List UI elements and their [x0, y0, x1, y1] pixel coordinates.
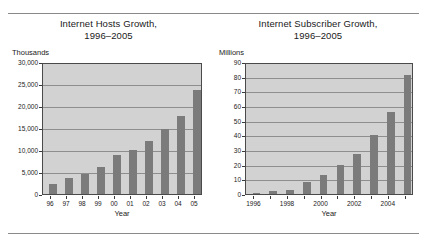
bar [81, 174, 88, 194]
bar [161, 129, 168, 194]
x-tick-label: 00 [110, 200, 117, 207]
x-tick-label: 03 [158, 200, 165, 207]
x-tick-label: 97 [62, 200, 69, 207]
x-tick-label: 2000 [313, 200, 327, 207]
y-tick-label: 15,000 [18, 126, 38, 133]
x-tick-mark [178, 196, 179, 199]
bar [193, 90, 200, 194]
x-tick-label: 1998 [280, 200, 294, 207]
chart-panel-internet-hosts: Internet Hosts Growth, 1996–2005 Thousan… [6, 18, 211, 230]
bar [303, 182, 311, 194]
y-tick-label: 30 [234, 148, 241, 155]
x-tick-label: 1996 [246, 200, 260, 207]
y-tick-label: 20 [234, 162, 241, 169]
bar [129, 150, 136, 194]
y-axis-subscribers: 0102030405060708090 [213, 63, 245, 195]
chart-panel-internet-subscribers: Internet Subscriber Growth, 1996–2005 Mi… [213, 18, 423, 230]
x-tick-mark [388, 196, 389, 199]
plot-area-hosts [42, 63, 202, 195]
x-tick-mark [98, 196, 99, 199]
x-tick-mark [66, 196, 67, 199]
y-tick-label: 20,000 [18, 104, 38, 111]
gridline [246, 92, 412, 93]
bar [320, 175, 328, 194]
x-tick-mark [130, 196, 131, 199]
y-tick-label: 10 [234, 177, 241, 184]
x-tick-mark [253, 196, 254, 199]
bar [269, 191, 277, 194]
bar [286, 190, 294, 194]
x-axis-title-subscribers: Year [245, 209, 413, 218]
y-tick-label: 90 [234, 60, 241, 67]
x-tick-mark [405, 196, 406, 199]
top-divider-rule [8, 13, 419, 14]
y-tick-label: 0 [34, 192, 38, 199]
x-tick-mark [114, 196, 115, 199]
x-tick-mark [162, 196, 163, 199]
bar [337, 165, 345, 194]
x-tick-label: 98 [78, 200, 85, 207]
bar [49, 184, 56, 194]
y-tick-label: 5,000 [22, 170, 38, 177]
bar [97, 167, 104, 194]
bar [387, 112, 395, 194]
x-tick-mark [304, 196, 305, 199]
x-tick-mark [337, 196, 338, 199]
y-axis-hosts: 05,00010,00015,00020,00025,00030,000 [6, 63, 42, 195]
y-tick-label: 50 [234, 118, 241, 125]
x-tick-mark [270, 196, 271, 199]
plot-area-subscribers [245, 63, 413, 195]
bar [145, 141, 152, 194]
bar [65, 178, 72, 194]
plot-wrapper-hosts: 05,00010,00015,00020,00025,00030,000 969… [6, 59, 211, 217]
x-tick-mark [287, 196, 288, 199]
chart-title-subscribers: Internet Subscriber Growth, 1996–2005 [213, 18, 423, 42]
x-tick-mark [146, 196, 147, 199]
x-tick-label: 02 [142, 200, 149, 207]
x-tick-mark [50, 196, 51, 199]
bar [370, 135, 378, 194]
gridline [43, 63, 201, 64]
bar [177, 116, 184, 194]
y-tick-label: 0 [237, 192, 241, 199]
x-tick-label: 04 [174, 200, 181, 207]
chart-title-hosts-line2: 1996–2005 [6, 30, 211, 42]
y-tick-label: 30,000 [18, 60, 38, 67]
x-tick-label: 05 [190, 200, 197, 207]
x-axis-title-hosts: Year [42, 209, 202, 218]
gridline [43, 85, 201, 86]
y-tick-label: 25,000 [18, 82, 38, 89]
gridline [43, 107, 201, 108]
bar [404, 75, 412, 194]
bar [113, 155, 120, 194]
bar [253, 193, 261, 194]
bar [353, 154, 361, 194]
x-tick-label: 2004 [381, 200, 395, 207]
plot-wrapper-subscribers: 0102030405060708090 19961998200020022004… [213, 59, 423, 217]
y-tick-label: 80 [234, 74, 241, 81]
x-tick-label: 01 [126, 200, 133, 207]
x-tick-mark [321, 196, 322, 199]
chart-title-subscribers-line1: Internet Subscriber Growth, [213, 18, 423, 30]
y-tick-label: 40 [234, 133, 241, 140]
y-tick-label: 10,000 [18, 148, 38, 155]
y-tick-label: 70 [234, 89, 241, 96]
x-tick-mark [82, 196, 83, 199]
y-axis-unit-label-millions: Millions [213, 48, 423, 57]
y-tick-label: 60 [234, 104, 241, 111]
x-tick-label: 96 [46, 200, 53, 207]
gridline [246, 78, 412, 79]
chart-title-hosts: Internet Hosts Growth, 1996–2005 [6, 18, 211, 42]
y-axis-unit-label-thousands: Thousands [6, 48, 211, 57]
x-tick-mark [194, 196, 195, 199]
x-tick-mark [354, 196, 355, 199]
x-tick-label: 99 [94, 200, 101, 207]
gridline [246, 107, 412, 108]
chart-title-hosts-line1: Internet Hosts Growth, [6, 18, 211, 30]
gridline [246, 63, 412, 64]
x-tick-label: 2002 [347, 200, 361, 207]
bottom-divider-rule [8, 233, 419, 234]
chart-title-subscribers-line2: 1996–2005 [213, 30, 423, 42]
x-tick-mark [371, 196, 372, 199]
